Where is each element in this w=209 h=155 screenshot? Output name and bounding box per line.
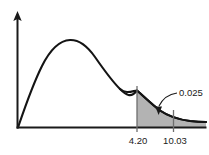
x-tick-label-10-03: 10.03 (163, 135, 187, 146)
tail-area-annotation-label: 0.025 (179, 87, 203, 98)
figure-canvas: 4.20 10.03 0.025 (0, 0, 209, 155)
annotation-leader-line (159, 93, 177, 106)
distribution-tail-figure: 4.20 10.03 0.025 (0, 0, 209, 155)
x-tick-label-4-20: 4.20 (129, 135, 148, 146)
density-curve (18, 40, 206, 128)
